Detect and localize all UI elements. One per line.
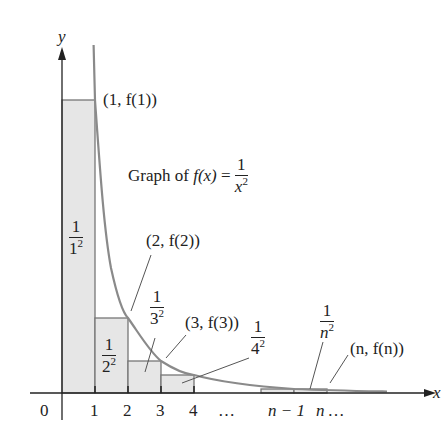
- tick-label-n-minus-1: n − 1: [268, 402, 305, 419]
- point-label-3: (3, f(3)): [185, 314, 239, 331]
- x-axis-label: x: [433, 384, 441, 401]
- function-label: Graph of f(x) = 1 x2: [128, 156, 248, 195]
- tick-label-n: n …: [316, 402, 344, 419]
- rect-label-n: 1 n2: [320, 302, 334, 341]
- y-axis-label: y: [58, 28, 66, 45]
- rect-4: [161, 375, 194, 393]
- rect-label-1: 1 12: [69, 218, 83, 257]
- rect-3: [128, 361, 161, 393]
- origin-label: 0: [40, 402, 49, 419]
- point-label-1: (1, f(1)): [103, 91, 157, 108]
- y-axis-arrow-icon: [58, 47, 66, 60]
- rect-label-2: 1 22: [102, 336, 116, 375]
- rect-label-3: 1 32: [150, 288, 164, 327]
- tick-label-4: 4: [189, 402, 198, 419]
- tick-label-ellipsis: …: [218, 402, 235, 419]
- diagram-graphics: [0, 0, 446, 438]
- point-label-2: (2, f(2)): [146, 232, 200, 249]
- point-label-n: (n, f(n)): [350, 340, 404, 357]
- tick-label-3: 3: [156, 402, 165, 419]
- tick-label-1: 1: [90, 402, 99, 419]
- rect-label-4: 1 42: [251, 318, 265, 357]
- tick-label-2: 2: [123, 402, 132, 419]
- diagram-canvas: y x 0 1 2 3 4 … n − 1 n … (1, f(1)) (2, …: [0, 0, 446, 438]
